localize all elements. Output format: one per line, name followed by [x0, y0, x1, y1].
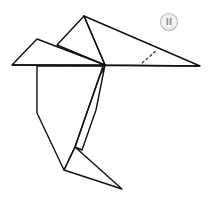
inner-body-strip — [75, 65, 105, 150]
back-wing-flap — [57, 16, 105, 65]
dashed-fold-line — [142, 51, 156, 63]
right-wing — [84, 16, 200, 66]
horizontal-crease — [12, 65, 200, 66]
tail — [64, 147, 122, 189]
step-badge: II — [161, 14, 178, 31]
step-number: II — [166, 18, 172, 27]
origami-diagram: II — [0, 0, 210, 197]
